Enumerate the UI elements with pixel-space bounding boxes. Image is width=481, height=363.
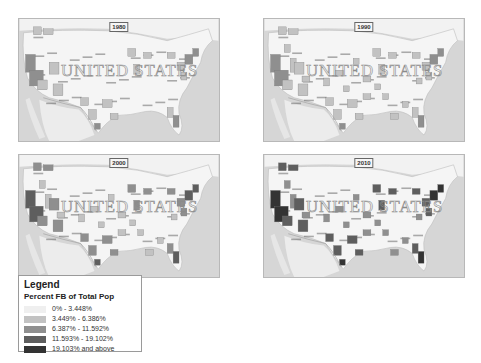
legend-label: 0% - 3.448% bbox=[52, 304, 92, 314]
map-panel-2010: 2010 UNITED STATES bbox=[263, 154, 465, 278]
map-panel-2000: 2000 UNITED STATES bbox=[18, 154, 220, 278]
year-label: 1990 bbox=[354, 22, 373, 32]
legend-row: 0% - 3.448% bbox=[24, 304, 136, 314]
map-panel-1990: 1990 UNITED STATES bbox=[263, 18, 465, 142]
svg-text:UNITED STATES: UNITED STATES bbox=[306, 61, 443, 80]
svg-text:UNITED STATES: UNITED STATES bbox=[306, 197, 443, 216]
choropleth-map: UNITED STATES bbox=[264, 155, 464, 277]
legend-row: 19.103% and above bbox=[24, 344, 136, 354]
map-panel-1980: 1980 UNITED STATES bbox=[18, 18, 220, 142]
legend-label: 3.449% - 6.386% bbox=[52, 314, 106, 324]
year-label: 2000 bbox=[109, 158, 128, 168]
legend-title: Legend bbox=[24, 279, 136, 291]
legend-swatch bbox=[24, 306, 46, 313]
legend-swatch bbox=[24, 316, 46, 323]
svg-text:UNITED STATES: UNITED STATES bbox=[61, 61, 198, 80]
legend-swatch bbox=[24, 326, 46, 333]
legend-subtitle: Percent FB of Total Pop bbox=[24, 291, 136, 302]
choropleth-map: UNITED STATES bbox=[19, 155, 219, 277]
year-label: 1980 bbox=[109, 22, 128, 32]
legend-label: 19.103% and above bbox=[52, 344, 114, 354]
year-label: 2010 bbox=[354, 158, 373, 168]
legend-row: 11.593% - 19.102% bbox=[24, 334, 136, 344]
svg-text:UNITED STATES: UNITED STATES bbox=[61, 197, 198, 216]
map-legend: Legend Percent FB of Total Pop 0% - 3.44… bbox=[18, 275, 142, 352]
legend-label: 11.593% - 19.102% bbox=[52, 334, 113, 344]
legend-row: 6.387% - 11.592% bbox=[24, 324, 136, 334]
legend-swatch bbox=[24, 336, 46, 343]
choropleth-map: UNITED STATES bbox=[19, 19, 219, 141]
legend-swatch bbox=[24, 346, 46, 353]
legend-row: 3.449% - 6.386% bbox=[24, 314, 136, 324]
legend-label: 6.387% - 11.592% bbox=[52, 324, 109, 334]
choropleth-map: UNITED STATES bbox=[264, 19, 464, 141]
